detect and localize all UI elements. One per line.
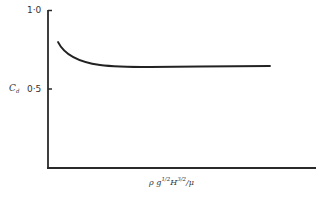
x-axis-label: ρ g1/2H3/2/μ bbox=[148, 176, 194, 187]
cd-curve bbox=[58, 42, 270, 67]
chart: 1·0 0·5 Cd ρ g1/2H3/2/μ bbox=[0, 0, 320, 203]
x-label-mu: /μ bbox=[185, 178, 194, 187]
y-tick-label-1: 1·0 bbox=[27, 5, 42, 15]
y-axis-label: Cd bbox=[9, 83, 20, 94]
x-label-rho: ρ bbox=[148, 178, 154, 187]
y-tick-label-0-5: 0·5 bbox=[27, 84, 41, 94]
y-label-sub: d bbox=[16, 88, 20, 94]
